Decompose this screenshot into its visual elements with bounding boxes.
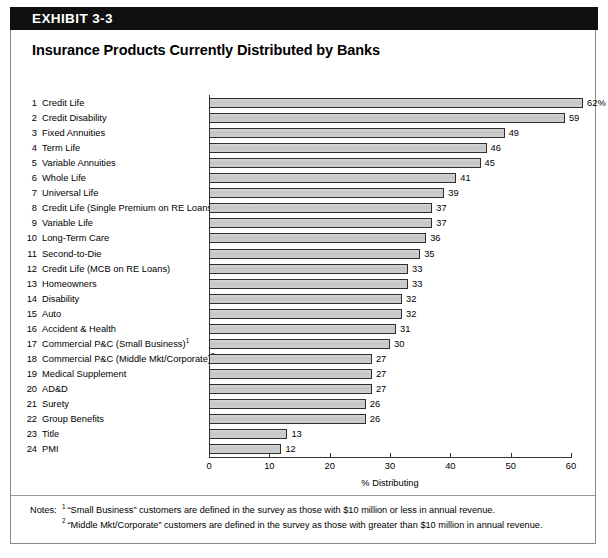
- bar-value-label: 37: [436, 201, 446, 216]
- x-axis-tick-label: 40: [435, 461, 465, 471]
- x-axis-tick: [209, 453, 210, 457]
- row-rank: 15: [19, 307, 37, 322]
- category-label: Credit Disability: [42, 111, 107, 126]
- row-rank: 13: [19, 277, 37, 292]
- notes-section: Notes:1“Small Business” customers are de…: [30, 503, 580, 532]
- category-label: Variable Annuities: [42, 156, 116, 171]
- category-label: Group Benefits: [42, 412, 104, 427]
- note-marker: 1: [62, 503, 66, 510]
- bar-value-label: 33: [412, 277, 422, 292]
- bar: [209, 203, 432, 213]
- category-label: Term Life: [42, 141, 80, 156]
- category-label: Medical Supplement: [42, 367, 126, 382]
- category-label: Surety: [42, 397, 69, 412]
- bar: [209, 173, 456, 183]
- bar: [209, 218, 432, 228]
- bar: [209, 143, 487, 153]
- bar: [209, 339, 390, 349]
- row-rank: 7: [19, 186, 37, 201]
- row-rank: 19: [19, 367, 37, 382]
- bar: [209, 188, 444, 198]
- bar: [209, 113, 565, 123]
- category-label: Commercial P&C (Middle Mkt/Corporate)2: [42, 352, 214, 367]
- bar: [209, 324, 396, 334]
- x-axis-tick-label: 20: [315, 461, 345, 471]
- bar: [209, 444, 281, 454]
- x-axis-tick-label: 0: [194, 461, 224, 471]
- category-label: Auto: [42, 307, 61, 322]
- category-label: Universal Life: [42, 186, 98, 201]
- x-axis-tick: [511, 453, 512, 457]
- bar-value-label: 12: [285, 442, 295, 457]
- row-rank: 10: [19, 231, 37, 246]
- bar-value-label: 27: [376, 367, 386, 382]
- x-axis-tick-label: 50: [496, 461, 526, 471]
- category-label: Title: [42, 427, 59, 442]
- bar-value-label: 30: [394, 337, 404, 352]
- x-axis-tick: [330, 453, 331, 457]
- row-rank: 1: [19, 96, 37, 111]
- bar: [209, 233, 426, 243]
- bar: [209, 264, 408, 274]
- x-axis-tick: [571, 453, 572, 457]
- row-rank: 21: [19, 397, 37, 412]
- bar-value-label: 32: [406, 292, 416, 307]
- note-line: Notes:1“Small Business” customers are de…: [30, 503, 580, 518]
- category-label: PMI: [42, 442, 59, 457]
- bar-chart: 1Credit Life62%2Credit Disability593Fixe…: [11, 8, 597, 544]
- y-axis-line: [209, 95, 210, 457]
- bar-value-label: 59: [569, 111, 579, 126]
- row-rank: 18: [19, 352, 37, 367]
- category-label: Homeowners: [42, 277, 97, 292]
- note-text: “Small Business” customers are defined i…: [68, 505, 495, 515]
- row-rank: 8: [19, 201, 37, 216]
- bar-value-label: 36: [430, 231, 440, 246]
- category-label: Credit Life: [42, 96, 84, 111]
- bar: [209, 128, 505, 138]
- category-label: Variable Life: [42, 216, 93, 231]
- bar-value-label: 27: [376, 352, 386, 367]
- bar-value-label: 26: [370, 412, 380, 427]
- category-label: Credit Life (Single Premium on RE Loans): [42, 201, 215, 216]
- row-rank: 17: [19, 337, 37, 352]
- bar-value-label: 32: [406, 307, 416, 322]
- row-rank: 24: [19, 442, 37, 457]
- bar: [209, 414, 366, 424]
- row-rank: 5: [19, 156, 37, 171]
- row-rank: 23: [19, 427, 37, 442]
- row-rank: 2: [19, 111, 37, 126]
- bar-value-label: 13: [291, 427, 301, 442]
- bar-value-label: 37: [436, 216, 446, 231]
- bar-value-label: 49: [509, 126, 519, 141]
- bar: [209, 429, 287, 439]
- category-label: Disability: [42, 292, 79, 307]
- note-marker: 2: [62, 517, 66, 524]
- bar-value-label: 31: [400, 322, 410, 337]
- category-label: Accident & Health: [42, 322, 116, 337]
- bar-value-label: 26: [370, 397, 380, 412]
- x-axis-tick-label: 10: [254, 461, 284, 471]
- bar-value-label: 33: [412, 262, 422, 277]
- bar-value-label: 41: [460, 171, 470, 186]
- row-rank: 12: [19, 262, 37, 277]
- category-label: Long-Term Care: [42, 231, 109, 246]
- bar: [209, 158, 481, 168]
- row-rank: 11: [19, 247, 37, 262]
- x-axis-tick: [269, 453, 270, 457]
- row-rank: 20: [19, 382, 37, 397]
- x-axis-tick: [390, 453, 391, 457]
- bar: [209, 399, 366, 409]
- row-rank: 9: [19, 216, 37, 231]
- x-axis-tick-label: 30: [375, 461, 405, 471]
- note-text: “Middle Mkt/Corporate” customers are def…: [68, 520, 543, 530]
- bar-value-label: 35: [424, 247, 434, 262]
- category-label: Second-to-Die: [42, 247, 101, 262]
- notes-heading: Notes:: [30, 503, 62, 518]
- category-label: Fixed Annuities: [42, 126, 105, 141]
- bar: [209, 354, 372, 364]
- bar: [209, 279, 408, 289]
- x-axis-tick: [450, 453, 451, 457]
- category-label: Whole Life: [42, 171, 86, 186]
- category-label: AD&D: [42, 382, 68, 397]
- bar-value-label: 62%: [587, 96, 606, 111]
